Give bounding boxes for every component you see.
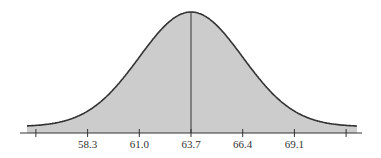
- tick-label: 63.7: [181, 138, 201, 150]
- tick-label: 66.4: [233, 138, 253, 150]
- tick-label: 58.3: [78, 138, 98, 150]
- shaded-area: [27, 12, 357, 133]
- tick-label: 61.0: [130, 138, 150, 150]
- x-axis-tick-labels: 58.361.063.766.469.1: [78, 138, 304, 150]
- normal-distribution-chart: 58.361.063.766.469.1: [0, 0, 381, 158]
- tick-label: 69.1: [285, 138, 304, 150]
